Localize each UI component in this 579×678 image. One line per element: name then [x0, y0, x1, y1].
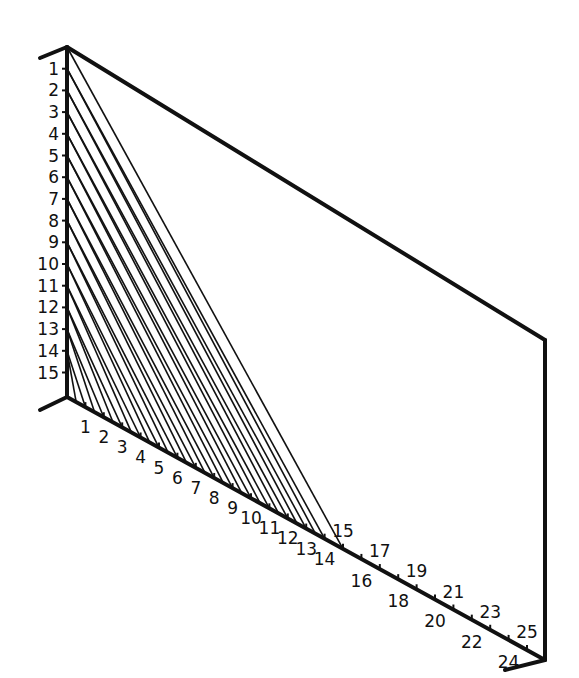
- vertical-axis-label: 12: [37, 297, 59, 317]
- vertical-axis-label: 10: [37, 254, 59, 274]
- vertical-axis-label: 7: [48, 189, 59, 209]
- bottom-axis-label: 8: [209, 488, 220, 508]
- bottom-axis-label: 3: [117, 437, 128, 457]
- vertical-axis-label: 9: [48, 232, 59, 252]
- bottom-axis-label: 7: [190, 478, 201, 498]
- bottom-axis-label: 18: [387, 591, 409, 611]
- vertical-axis-label: 4: [48, 124, 59, 144]
- bottom-axis-label: 20: [424, 611, 446, 631]
- vertical-axis-label: 15: [37, 363, 59, 383]
- bottom-axis-label: 17: [369, 541, 391, 561]
- bottom-axis-label: 4: [135, 447, 146, 467]
- vertical-axis-label: 8: [48, 211, 59, 231]
- bottom-left-stub: [40, 397, 67, 410]
- top-stub: [40, 47, 67, 58]
- vertical-axis-label: 14: [37, 341, 59, 361]
- vertical-axis-label: 2: [48, 80, 59, 100]
- vertical-axis-label: 1: [48, 59, 59, 79]
- bottom-axis-label: 6: [172, 468, 183, 488]
- vertical-axis-label: 13: [37, 319, 59, 339]
- thread-line: [67, 177, 223, 483]
- bottom-axis-label: 25: [516, 622, 538, 642]
- vertical-axis-label: 3: [48, 102, 59, 122]
- frame-lines: [40, 47, 545, 670]
- bottom-axis-label: 24: [498, 652, 520, 672]
- bottom-axis-label: 15: [332, 521, 354, 541]
- top-edge: [67, 47, 545, 340]
- vertical-axis-label: 5: [48, 146, 59, 166]
- vertical-axis-label: 11: [37, 276, 59, 296]
- bottom-axis-label: 19: [406, 561, 428, 581]
- bottom-axis-labels: 1234567891011121314151617181920212223242…: [80, 417, 538, 672]
- thread-line: [67, 134, 260, 503]
- string-art-diagram: 123456789101112131415 123456789101112131…: [0, 0, 579, 678]
- bottom-axis-label: 23: [479, 602, 501, 622]
- bottom-axis-label: 22: [461, 632, 483, 652]
- vertical-axis-label: 6: [48, 167, 59, 187]
- bottom-axis-label: 16: [351, 571, 373, 591]
- bottom-axis-label: 5: [154, 458, 165, 478]
- bottom-axis-label: 14: [314, 549, 336, 569]
- bottom-axis-label: 1: [80, 417, 91, 437]
- bottom-axis-label: 21: [443, 582, 465, 602]
- bottom-axis-label: 9: [227, 498, 238, 518]
- bottom-axis-label: 2: [98, 427, 109, 447]
- vertical-axis-labels: 123456789101112131415: [37, 59, 59, 383]
